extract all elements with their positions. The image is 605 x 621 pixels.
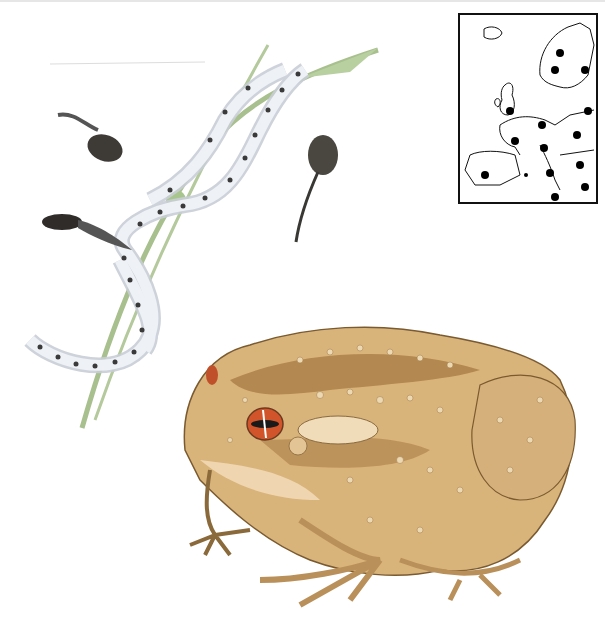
range-dots — [481, 49, 592, 201]
iceland-outline — [484, 27, 502, 39]
tadpole-top-left — [58, 115, 126, 167]
range-map — [458, 13, 598, 204]
hind-leg — [472, 375, 575, 500]
adult-toad — [184, 327, 575, 605]
water-line — [50, 62, 205, 64]
ireland-outline — [495, 99, 500, 107]
parotoid-gland — [298, 416, 378, 444]
scandinavia-outline — [540, 23, 594, 88]
europe-map — [460, 15, 596, 202]
tadpole-right — [296, 135, 338, 242]
toad-eye-far — [206, 365, 218, 385]
